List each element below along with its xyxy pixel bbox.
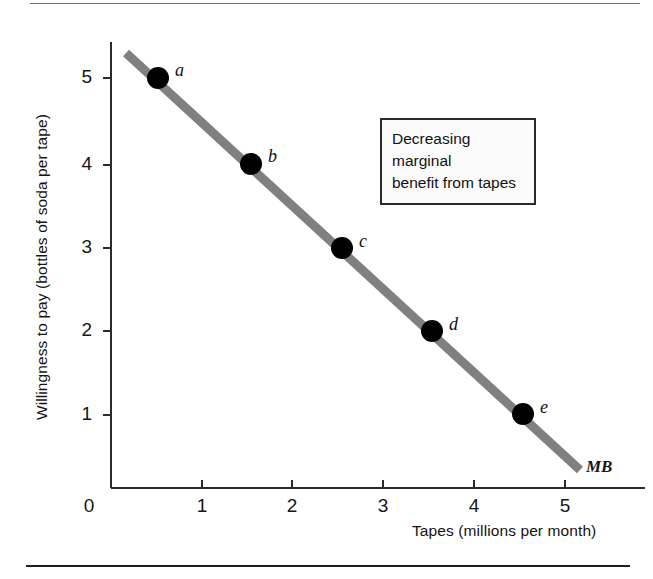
x-tick-label-5: 5: [552, 495, 578, 517]
data-point-c[interactable]: [331, 237, 353, 259]
data-point-d[interactable]: [421, 320, 443, 342]
point-label-a: a: [175, 60, 184, 81]
x-tick-label-2: 2: [279, 495, 305, 517]
x-tick-label-3: 3: [370, 495, 396, 517]
annotation-line-3: benefit from tapes: [392, 172, 525, 194]
data-point-b[interactable]: [240, 153, 262, 175]
origin-label: 0: [76, 495, 102, 517]
annotation-line-2: marginal: [392, 150, 525, 172]
point-label-c: c: [359, 231, 367, 252]
x-axis-title: Tapes (millions per month): [412, 522, 596, 540]
annotation-box: Decreasing marginal benefit from tapes: [380, 118, 536, 205]
point-label-b: b: [268, 146, 277, 167]
y-tick-label-2: 2: [66, 319, 92, 341]
y-axis-title: Willingness to pay (bottles of soda per …: [33, 57, 51, 477]
x-tick-label-1: 1: [189, 495, 215, 517]
annotation-line-1: Decreasing: [392, 128, 525, 150]
y-tick-label-4: 4: [66, 153, 92, 175]
marginal-benefit-figure: Willingness to pay (bottles of soda per …: [0, 0, 653, 579]
point-label-e: e: [540, 397, 548, 418]
x-tick-label-4: 4: [461, 495, 487, 517]
plot-area: [0, 0, 653, 579]
data-point-e[interactable]: [512, 403, 534, 425]
y-tick-label-1: 1: [66, 403, 92, 425]
mb-curve-label: MB: [586, 457, 612, 477]
data-point-a[interactable]: [147, 67, 169, 89]
point-label-d: d: [449, 314, 458, 335]
y-tick-label-3: 3: [66, 236, 92, 258]
y-tick-label-5: 5: [66, 66, 92, 88]
mb-curve-line: [126, 53, 580, 470]
